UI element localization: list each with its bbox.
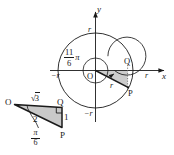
- angle-numerator: 11: [64, 48, 74, 57]
- angle-fraction: 11 6: [64, 48, 74, 67]
- triangle-vertex-q-label: Q: [57, 98, 64, 107]
- y-axis-tick-label-bottom: −r: [84, 110, 93, 118]
- triangle-opposite-side-label: 1: [64, 113, 69, 122]
- radicand: 3: [35, 92, 40, 103]
- triangle-angle-fraction: π 6: [31, 129, 40, 147]
- reference-triangle-shape: [15, 105, 63, 128]
- reference-triangle-group: [15, 105, 63, 129]
- triangle-angle-label-pi-over-six: π 6: [31, 129, 40, 147]
- triangle-adjacent-side-label: √3: [31, 94, 40, 103]
- triangle-angle-numerator: π: [32, 129, 38, 137]
- x-axis-label: x: [162, 72, 166, 81]
- triangle-hypotenuse-label: 2: [33, 115, 38, 124]
- angle-label-eleven-pi-over-six: 11 6 π: [64, 48, 79, 67]
- circle-point-q-label: Q: [124, 57, 130, 66]
- triangle-angle-denominator: 6: [33, 139, 39, 147]
- pi-symbol: π: [74, 53, 79, 62]
- radius-length-label: r: [110, 82, 113, 90]
- triangle-vertex-o-label: O: [5, 98, 12, 107]
- y-axis-label: y: [97, 5, 101, 14]
- x-axis-tick-label-right: r: [145, 72, 148, 80]
- y-axis-tick-label-top: r: [88, 26, 91, 34]
- math-figure-unit-circle: y x r −r −r r O 11 6 π Q P r O √3 Q 1 2 …: [0, 0, 174, 155]
- circle-point-p-label: P: [128, 89, 133, 98]
- triangle-vertex-p-label: P: [60, 131, 65, 140]
- x-axis-tick-label-left: −r: [51, 72, 60, 80]
- origin-label: O: [87, 72, 93, 81]
- angle-denominator: 6: [66, 59, 72, 68]
